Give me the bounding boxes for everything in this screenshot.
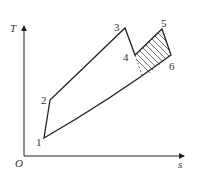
hatched-area [102, 25, 201, 85]
t-axis-label: T [10, 22, 17, 34]
point-3-label: 3 [114, 21, 120, 33]
origin-label: O [15, 157, 23, 169]
point-6-label: 6 [169, 60, 175, 72]
point-4-label: 4 [123, 51, 129, 63]
point-2-label: 2 [41, 94, 47, 106]
s-axis-label: s [178, 158, 182, 170]
point-5-label: 5 [161, 17, 167, 29]
point-1-label: 1 [36, 136, 42, 148]
ts-diagram: T s O 1 2 3 4 5 6 [0, 0, 201, 180]
